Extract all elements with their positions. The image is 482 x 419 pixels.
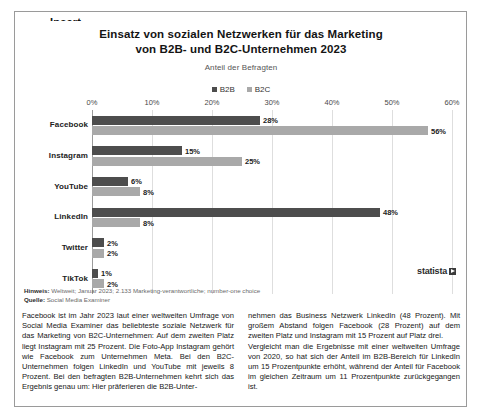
bar-value-label: 15% — [182, 146, 200, 155]
chart-category-row: Facebook28%56% — [22, 110, 460, 141]
bar-value-label: 8% — [140, 218, 154, 227]
x-axis-tick-label: 30% — [264, 98, 279, 107]
bar-youtube-b2c[interactable] — [92, 187, 140, 196]
bar-track: 28% — [22, 116, 460, 125]
legend-label: B2B — [220, 85, 235, 94]
bar-value-label: 6% — [128, 177, 142, 186]
bar-track: 8% — [22, 187, 460, 196]
x-axis-tick-label: 0% — [87, 98, 98, 107]
chart-category-row: LinkedIn48%8% — [22, 202, 460, 233]
bar-track: 2% — [22, 238, 460, 247]
bar-linkedin-b2c[interactable] — [92, 218, 140, 227]
legend-label: B2C — [255, 85, 271, 94]
bar-track: 6% — [22, 177, 460, 186]
bar-value-label: 48% — [380, 208, 398, 217]
x-axis-tick-label: 10% — [144, 98, 159, 107]
chart-bar-rows: Facebook28%56%Instagram15%25%YouTube6%8%… — [22, 110, 460, 294]
bar-instagram-b2b[interactable] — [92, 146, 182, 155]
source-label: Quelle: — [24, 296, 45, 303]
x-axis-tick-label: 20% — [204, 98, 219, 107]
bar-value-label: 25% — [242, 157, 260, 166]
legend-item-b2b[interactable]: B2B — [212, 85, 235, 94]
chart-category-row: Instagram15%25% — [22, 141, 460, 172]
chart-source-line: Quelle: Social Media Examiner — [24, 296, 260, 305]
legend-swatch-icon — [212, 87, 217, 92]
bar-track: 15% — [22, 146, 460, 155]
note-text: Weltweit; Januar 2023; 2.133 Marketing-v… — [51, 287, 260, 294]
bar-linkedin-b2b[interactable] — [92, 208, 380, 217]
article-column-left: Facebook ist im Jahr 2023 laut einer wel… — [22, 311, 234, 403]
x-axis-tick-label: 60% — [444, 98, 459, 107]
statista-logo: statista — [417, 266, 456, 276]
bar-track: 1% — [22, 269, 460, 278]
x-axis-tick-label: 40% — [324, 98, 339, 107]
bar-track: 56% — [22, 126, 460, 135]
bar-value-label: 8% — [140, 187, 154, 196]
bar-youtube-b2b[interactable] — [92, 177, 128, 186]
chart-title: Einsatz von sozialen Netzwerken für das … — [22, 21, 460, 57]
article-column-right: nehmen das Business Netzwerk LinkedIn (4… — [248, 311, 460, 403]
bar-value-label: 56% — [428, 126, 446, 135]
bar-track: 48% — [22, 208, 460, 217]
chart-plot-area: 0%10%20%30%40%50%60% Facebook28%56%Insta… — [22, 98, 460, 294]
statista-wordmark: statista — [417, 266, 447, 276]
bar-track: 8% — [22, 218, 460, 227]
bar-value-label: 2% — [104, 249, 118, 258]
bar-facebook-b2c[interactable] — [92, 126, 428, 135]
bar-twitter-b2b[interactable] — [92, 238, 104, 247]
bar-value-label: 28% — [260, 116, 278, 125]
bar-value-label: 2% — [104, 238, 118, 247]
chart-category-row: Twitter2%2% — [22, 233, 460, 264]
legend-swatch-icon — [247, 87, 252, 92]
chart-title-line-2: von B2B- und B2C-Unternehmen 2023 — [22, 42, 460, 57]
article-paragraph: Facebook ist im Jahr 2023 laut einer wel… — [22, 311, 234, 393]
note-label: Hinweis: — [24, 287, 49, 294]
chart-category-row: YouTube6%8% — [22, 171, 460, 202]
article-paragraph: nehmen das Business Netzwerk LinkedIn (4… — [248, 311, 460, 342]
bar-track: 2% — [22, 249, 460, 258]
article-body: Facebook ist im Jahr 2023 laut einer wel… — [22, 311, 460, 403]
x-axis-tick-label: 50% — [384, 98, 399, 107]
article-paragraph: Vergleicht man die Ergebnisse mit einer … — [248, 342, 460, 393]
bar-track: 25% — [22, 157, 460, 166]
bar-twitter-b2c[interactable] — [92, 249, 104, 258]
bar-value-label: 1% — [98, 269, 112, 278]
statista-chart-card: Einsatz von sozialen Netzwerken für das … — [22, 21, 460, 306]
bar-facebook-b2b[interactable] — [92, 116, 260, 125]
x-axis-tick-labels: 0%10%20%30%40%50%60% — [22, 98, 460, 110]
chart-note-line: Hinweis: Weltweit; Januar 2023; 2.133 Ma… — [24, 287, 260, 296]
chart-footnotes: Hinweis: Weltweit; Januar 2023; 2.133 Ma… — [24, 287, 260, 304]
bar-instagram-b2c[interactable] — [92, 157, 242, 166]
chart-title-line-1: Einsatz von sozialen Netzwerken für das … — [22, 27, 460, 42]
chart-subtitle: Anteil der Befragten — [22, 63, 460, 72]
statista-mark-icon — [449, 268, 456, 275]
legend-item-b2c[interactable]: B2C — [247, 85, 271, 94]
chart-legend: B2BB2C — [22, 84, 460, 94]
source-text: Social Media Examiner — [47, 296, 110, 303]
